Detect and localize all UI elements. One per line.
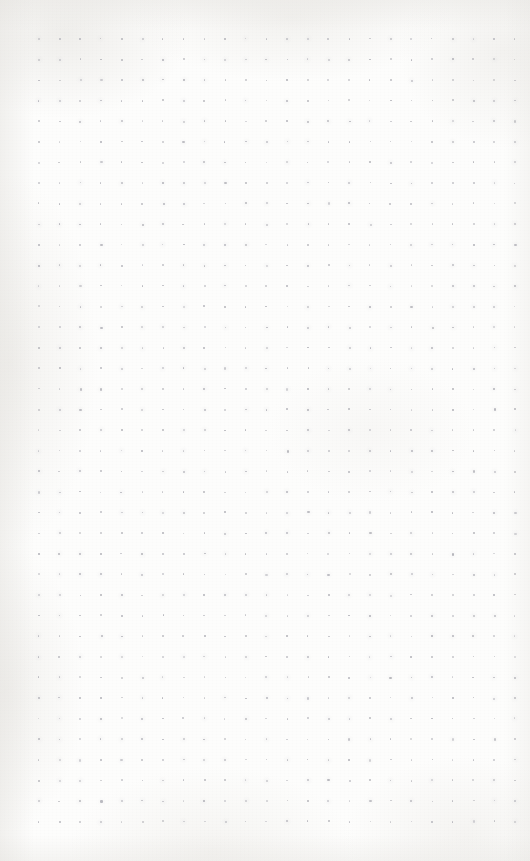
dot-grid-page (0, 0, 530, 861)
paper-background (0, 0, 530, 861)
